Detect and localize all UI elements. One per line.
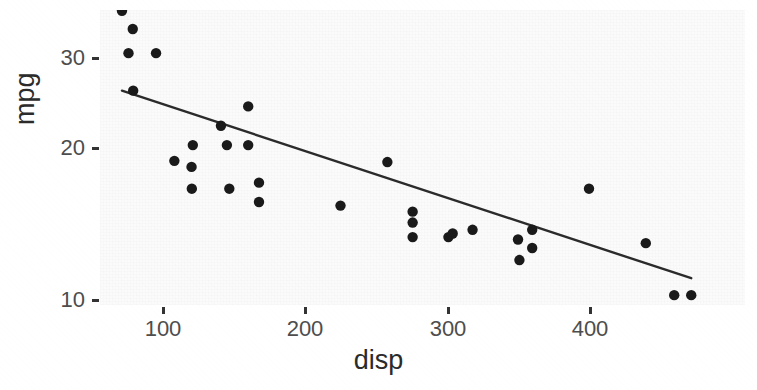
data-point	[527, 243, 537, 253]
data-point	[186, 162, 196, 172]
data-point	[123, 48, 133, 58]
regression-line-segment	[122, 91, 691, 279]
data-point	[584, 183, 594, 193]
data-point	[128, 85, 138, 95]
data-point	[335, 200, 345, 210]
y-tick-label-20: 20	[45, 137, 85, 159]
x-tick-label-100: 100	[145, 318, 182, 340]
x-tick-mark-100	[162, 307, 165, 314]
data-point	[382, 157, 392, 167]
data-point	[513, 234, 523, 244]
data-point	[187, 183, 197, 193]
data-point	[514, 255, 524, 265]
data-point	[669, 290, 679, 300]
data-point	[188, 140, 198, 150]
data-point	[467, 225, 477, 235]
data-points	[117, 10, 697, 300]
x-tick-mark-400	[589, 307, 592, 314]
y-tick-label-10: 10	[45, 289, 85, 311]
y-tick-mark-10	[92, 299, 99, 302]
y-tick-mark-20	[92, 147, 99, 150]
y-tick-label-30: 30	[45, 47, 85, 69]
x-tick-label-300: 300	[430, 318, 467, 340]
scatter-plot-figure: 30 20 10 100 200 300 400 disp mpg	[0, 0, 757, 390]
y-axis-title: mpg	[10, 72, 41, 125]
y-tick-mark-30	[92, 57, 99, 60]
data-point	[641, 238, 651, 248]
data-point	[407, 217, 417, 227]
data-point	[169, 156, 179, 166]
x-axis-title: disp	[0, 345, 757, 376]
x-tick-mark-200	[304, 307, 307, 314]
x-tick-label-400: 400	[572, 318, 609, 340]
data-point	[243, 140, 253, 150]
data-point	[128, 24, 138, 34]
data-point	[447, 228, 457, 238]
data-point	[216, 121, 226, 131]
data-point	[243, 101, 253, 111]
x-tick-label-200: 200	[287, 318, 324, 340]
data-point	[117, 10, 127, 16]
plot-panel	[100, 10, 745, 305]
data-point	[527, 225, 537, 235]
data-point	[224, 183, 234, 193]
data-point	[222, 140, 232, 150]
x-tick-mark-300	[447, 307, 450, 314]
plot-canvas	[100, 10, 745, 305]
data-point	[686, 290, 696, 300]
data-point	[151, 48, 161, 58]
data-point	[254, 197, 264, 207]
data-point	[407, 232, 417, 242]
data-point	[407, 206, 417, 216]
data-point	[254, 177, 264, 187]
regression-line	[122, 91, 691, 279]
